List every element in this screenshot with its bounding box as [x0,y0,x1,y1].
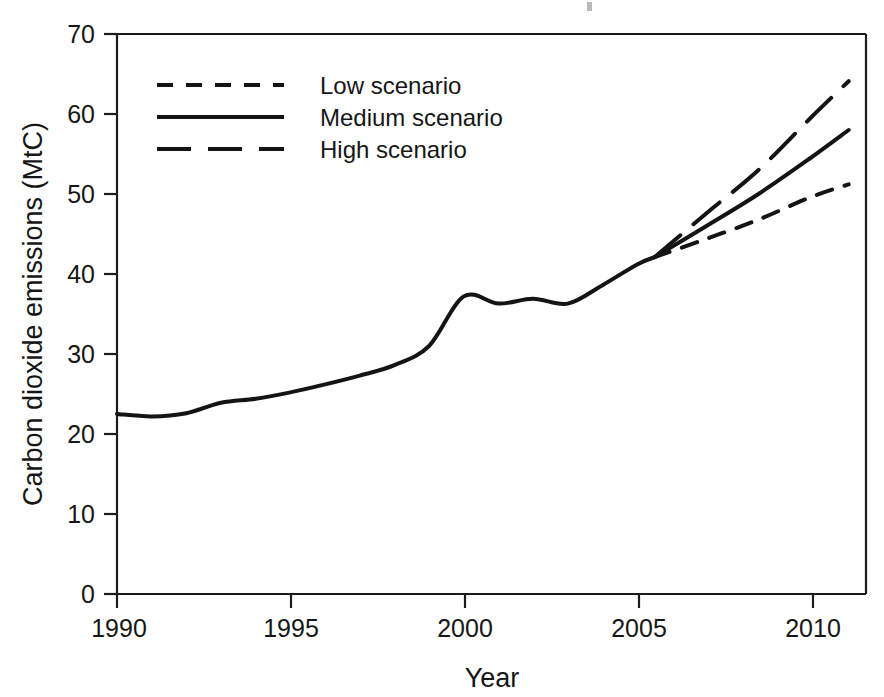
y-tick-label-20: 20 [67,420,95,448]
x-axis-ticks [117,594,813,608]
y-tick-label-50: 50 [67,180,95,208]
legend-label-high: High scenario [320,136,467,163]
data-series-group [117,81,849,416]
y-tick-label-70: 70 [67,20,95,48]
series-low-scenario-line [654,184,848,257]
x-tick-label-1990: 1990 [91,614,147,642]
chart-legend: Low scenario Medium scenario High scenar… [157,72,503,163]
y-axis-title: Carbon dioxide emissions (MtC) [18,122,48,506]
y-tick-label-10: 10 [67,500,95,528]
y-axis-tick-labels: 70 60 50 40 30 20 10 0 [67,20,95,608]
x-tick-label-2000: 2000 [437,614,493,642]
chart-page: 70 60 50 40 30 20 10 0 1990 1995 2000 20… [0,0,884,697]
y-axis-ticks [104,34,117,594]
series-high-scenario-line [654,81,848,257]
legend-item-medium: Medium scenario [157,104,503,131]
x-axis-tick-labels: 1990 1995 2000 2005 2010 [91,614,841,642]
legend-label-medium: Medium scenario [320,104,503,131]
emissions-line-chart: 70 60 50 40 30 20 10 0 1990 1995 2000 20… [0,0,884,697]
scan-artifact [587,2,592,11]
legend-label-low: Low scenario [320,72,461,99]
series-history-line [117,257,654,416]
legend-item-low: Low scenario [157,72,461,99]
y-tick-label-30: 30 [67,340,95,368]
x-axis-title: Year [465,663,520,693]
legend-item-high: High scenario [157,136,467,163]
x-tick-label-1995: 1995 [263,614,319,642]
x-tick-label-2005: 2005 [611,614,667,642]
y-tick-label-40: 40 [67,260,95,288]
y-tick-label-0: 0 [81,580,95,608]
x-tick-label-2010: 2010 [785,614,841,642]
y-tick-label-60: 60 [67,100,95,128]
